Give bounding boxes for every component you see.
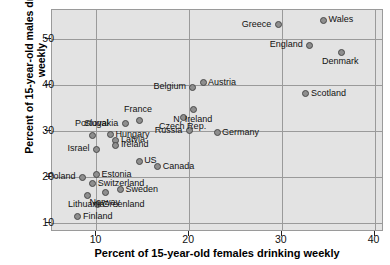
data-point-marker xyxy=(275,21,282,28)
data-point-marker xyxy=(214,129,221,136)
point-label: Denmark xyxy=(322,56,359,66)
point-label: Canada xyxy=(163,161,195,171)
data-point-marker xyxy=(74,213,81,220)
point-label: Greece xyxy=(242,19,272,29)
data-point-marker xyxy=(112,142,119,149)
gridline-horizontal xyxy=(52,223,382,224)
x-axis-tick-mark xyxy=(188,231,189,236)
point-label: US xyxy=(144,155,157,165)
data-point-marker xyxy=(136,158,143,165)
data-point-marker xyxy=(320,17,327,24)
point-label: Scotland xyxy=(311,88,346,98)
data-point-marker xyxy=(200,79,207,86)
data-point-marker xyxy=(136,117,143,124)
point-label: Finland xyxy=(83,211,113,221)
point-label: Russia xyxy=(155,125,183,135)
point-label: Austria xyxy=(208,77,236,87)
point-label: Wales xyxy=(329,14,354,24)
data-point-marker xyxy=(189,84,196,91)
point-label: Portugal xyxy=(75,118,109,128)
data-point-marker xyxy=(79,174,86,181)
x-axis-tick-mark xyxy=(374,231,375,236)
point-label: Germany xyxy=(222,127,259,137)
data-point-marker xyxy=(93,146,100,153)
data-point-marker xyxy=(338,49,345,56)
y-axis-tick-mark xyxy=(45,222,51,223)
point-label: Ireland xyxy=(121,139,149,149)
point-label: Lithuania xyxy=(68,199,105,209)
point-label: England xyxy=(270,39,303,49)
gridline-horizontal xyxy=(52,39,382,40)
data-point-marker xyxy=(122,120,129,127)
point-label: Sweden xyxy=(126,184,159,194)
x-axis-tick-mark xyxy=(95,231,96,236)
data-point-marker xyxy=(306,42,313,49)
point-label: Israel xyxy=(67,143,89,153)
point-label: France xyxy=(124,104,152,114)
point-label: Poland xyxy=(48,171,76,181)
y-axis-title: Percent of 15-year-old males drinking we… xyxy=(23,0,47,160)
data-point-marker xyxy=(302,90,309,97)
data-point-marker xyxy=(190,106,197,113)
x-axis-tick-mark xyxy=(281,231,282,236)
data-point-marker xyxy=(102,189,109,196)
scatter-plot-figure: 102030405010203040 WalesGreeceEnglandDen… xyxy=(0,0,390,265)
x-axis-title: Percent of 15-year-old females drinking … xyxy=(51,247,383,259)
gridline-vertical xyxy=(375,10,376,230)
point-label: Belgium xyxy=(153,81,186,91)
point-label: Greenland xyxy=(102,199,144,209)
